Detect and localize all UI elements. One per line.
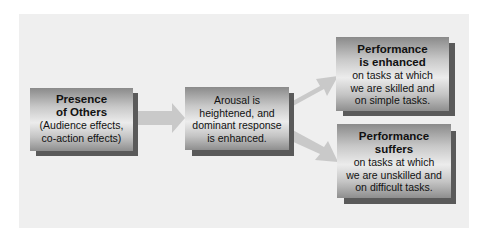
node-body-line: on simple tasks. xyxy=(336,94,449,107)
arrow-presence-to-arousal xyxy=(137,103,185,133)
node-title-line: is enhanced xyxy=(336,56,449,69)
node-title-line: Performance xyxy=(337,130,451,143)
node-body-line: co-action effects) xyxy=(30,132,133,145)
node-performance-suffers: Performance suffers on tasks at which we… xyxy=(337,124,451,198)
node-body-line: dominant response xyxy=(185,119,289,132)
node-body-line: we are unskilled and xyxy=(337,169,451,182)
node-body-line: heightened, and xyxy=(185,107,289,120)
node-title-line: Presence xyxy=(30,93,133,106)
node-arousal: Arousal is heightened, and dominant resp… xyxy=(185,87,289,150)
arrow-arousal-to-enhanced xyxy=(289,76,338,112)
node-title-line: Performance xyxy=(336,43,449,56)
node-body-line: on difficult tasks. xyxy=(337,181,451,194)
node-body-line: (Audience effects, xyxy=(30,119,133,132)
arrow-arousal-to-suffers xyxy=(289,128,338,162)
node-title-line: of Others xyxy=(30,106,133,119)
node-body-line: Arousal is xyxy=(185,94,289,107)
node-body-line: on tasks at which xyxy=(337,156,451,169)
node-body-line: we are skilled and xyxy=(336,82,449,95)
node-presence-of-others: Presence of Others (Audience effects, co… xyxy=(30,88,133,151)
node-body-line: on tasks at which xyxy=(336,69,449,82)
node-body-line: is enhanced. xyxy=(185,132,289,145)
node-title-line: suffers xyxy=(337,143,451,156)
node-performance-enhanced: Performance is enhanced on tasks at whic… xyxy=(336,37,449,111)
